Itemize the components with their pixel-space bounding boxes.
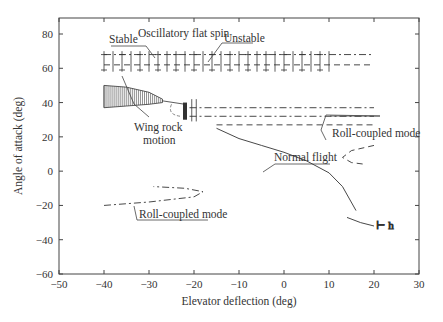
y-tick-label: −60 bbox=[36, 268, 54, 280]
label-roll-coupled-right: Roll-coupled mode bbox=[332, 127, 420, 140]
label-wing-rock-motion: motion bbox=[143, 134, 176, 146]
endpoint-marker: ⊢ h bbox=[376, 219, 394, 231]
y-tick-label: −40 bbox=[36, 234, 54, 246]
x-tick-label: −30 bbox=[140, 278, 158, 290]
x-tick-label: 20 bbox=[369, 278, 381, 290]
label-stable: Stable bbox=[109, 33, 138, 45]
x-tick-label: 30 bbox=[414, 278, 426, 290]
series-line bbox=[217, 128, 357, 210]
label-wing-rock: Wing rock bbox=[134, 121, 183, 134]
x-axis-title: Elevator deflection (deg) bbox=[182, 295, 297, 308]
stable-leader bbox=[111, 46, 155, 58]
y-tick-label: −20 bbox=[36, 199, 54, 211]
y-tick-label: 20 bbox=[42, 131, 54, 143]
y-tick-label: 40 bbox=[42, 97, 54, 109]
y-tick-label: 60 bbox=[42, 62, 54, 74]
x-tick-label: −40 bbox=[95, 278, 113, 290]
series-line bbox=[343, 145, 375, 164]
y-axis-title: Angle of attack (deg) bbox=[12, 97, 25, 195]
x-tick-label: −50 bbox=[50, 278, 68, 290]
x-tick-label: −20 bbox=[185, 278, 203, 290]
unstable-leader bbox=[208, 43, 253, 62]
series-line bbox=[347, 217, 374, 226]
wing-rock-tail bbox=[163, 101, 186, 104]
y-tick-label: 80 bbox=[42, 28, 54, 40]
label-oscillatory-flat-spin: Oscillatory flat spin bbox=[138, 27, 230, 40]
x-tick-label: 0 bbox=[281, 278, 287, 290]
chart: −50−40−30−20−100102030−60−40−20020406080… bbox=[0, 0, 443, 322]
wing-rock-region bbox=[104, 85, 163, 107]
label-normal-flight: Normal flight bbox=[274, 151, 338, 164]
y-tick-label: 0 bbox=[48, 165, 54, 177]
wing-rock-dashed-tail bbox=[170, 104, 180, 116]
label-unstable: Unstable bbox=[224, 32, 265, 44]
x-tick-label: −10 bbox=[230, 278, 248, 290]
series-line bbox=[104, 187, 203, 206]
label-roll-coupled-left: Roll-coupled mode bbox=[139, 208, 227, 221]
x-tick-label: 10 bbox=[324, 278, 336, 290]
